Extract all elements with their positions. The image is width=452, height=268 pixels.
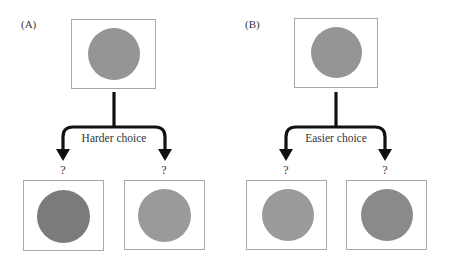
option-box-b-right	[346, 180, 427, 250]
question-mark-b-left: ?	[283, 163, 288, 178]
option-box-a-left	[23, 180, 104, 251]
choice-label-a: Harder choice	[80, 132, 149, 144]
question-mark-b-right: ?	[382, 163, 387, 178]
option-circle-b-left	[262, 189, 314, 241]
option-circle-a-left	[37, 190, 90, 243]
option-box-b-left	[246, 180, 327, 250]
question-mark-a-right: ?	[161, 163, 166, 178]
panel-a: (A) Harder choice ? ?	[0, 0, 226, 268]
choice-label-b: Easier choice	[303, 132, 369, 144]
question-mark-a-left: ?	[60, 163, 65, 178]
option-box-a-right	[124, 180, 205, 250]
option-circle-a-right	[138, 189, 191, 242]
option-circle-b-right	[361, 189, 413, 241]
panel-b: (B) Easier choice ? ?	[226, 0, 452, 268]
